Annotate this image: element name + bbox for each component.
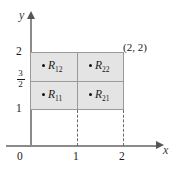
cell-label-R11: R11 [42, 88, 62, 103]
cell-name-R12: R [48, 59, 55, 71]
sample-point-dot-icon [89, 93, 92, 96]
math-figure: y x R12 R22 R11 R21 (2, 2) 2 3 2 1 1 2 0 [0, 0, 181, 174]
x-axis-label: x [163, 143, 168, 158]
sample-point-dot-icon [42, 93, 45, 96]
cell-subscript-R22: 22 [102, 65, 110, 74]
cell-subscript-R12: 12 [55, 65, 63, 74]
fraction-numerator: 3 [14, 69, 27, 78]
region-vertical-divider [77, 52, 78, 110]
cell-name-R22: R [95, 59, 102, 71]
y-tick-label-three-halves: 3 2 [14, 69, 27, 90]
cell-label-R22: R22 [89, 59, 110, 74]
y-tick-label-1: 1 [16, 102, 22, 114]
fraction-denominator: 2 [14, 80, 27, 89]
y-tick-label-2: 2 [16, 45, 22, 57]
dashed-dropline-x2 [123, 110, 124, 146]
cell-subscript-R21: 21 [102, 94, 110, 103]
dashed-dropline-x1 [77, 110, 78, 146]
x-axis-line [6, 145, 158, 147]
x-tick-label-1: 1 [73, 150, 79, 162]
y-axis-label: y [19, 8, 24, 23]
cell-name-R11: R [48, 88, 55, 100]
origin-label: 0 [17, 150, 23, 162]
sample-point-dot-icon [89, 64, 92, 67]
corner-point-annotation: (2, 2) [123, 41, 147, 53]
sample-point-dot-icon [42, 64, 45, 67]
cell-name-R21: R [95, 88, 102, 100]
cell-label-R21: R21 [89, 88, 110, 103]
x-tick-label-2: 2 [119, 150, 125, 162]
y-axis-arrow-icon [27, 11, 35, 19]
cell-label-R12: R12 [42, 59, 63, 74]
cell-subscript-R11: 11 [55, 94, 62, 103]
